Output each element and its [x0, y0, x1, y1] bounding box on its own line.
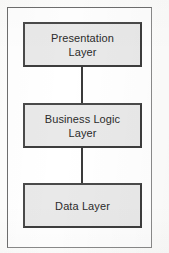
node-data-layer-label: Data Layer: [51, 199, 114, 213]
connector-presentation-to-business: [81, 66, 83, 104]
node-presentation-layer: Presentation Layer: [23, 22, 142, 67]
node-presentation-layer-label: Presentation Layer: [47, 31, 118, 59]
node-business-logic-layer-label: Business Logic Layer: [41, 112, 124, 140]
node-data-layer: Data Layer: [23, 183, 142, 228]
layered-architecture-diagram: Presentation Layer Business Logic Layer …: [0, 0, 169, 253]
connector-business-to-data: [81, 147, 83, 184]
node-business-logic-layer: Business Logic Layer: [23, 103, 142, 148]
